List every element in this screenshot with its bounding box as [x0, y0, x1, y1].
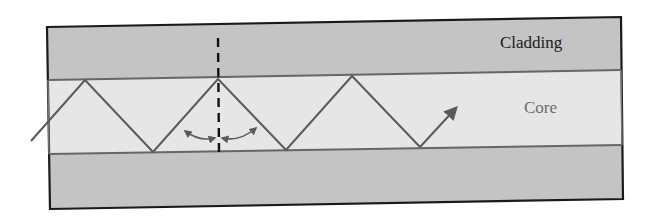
fiber-diagram: Cladding Core: [0, 0, 659, 222]
cladding-label: Cladding: [500, 33, 563, 52]
core-label: Core: [524, 98, 557, 117]
core-left-edge: [48, 80, 49, 154]
bottom-cladding-layer: [49, 145, 623, 209]
core-right-edge: [621, 70, 622, 145]
